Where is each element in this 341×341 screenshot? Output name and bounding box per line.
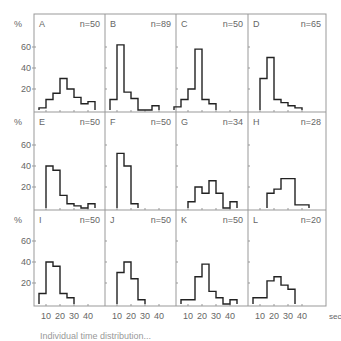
x-tick-label: 10: [41, 311, 51, 321]
panel-letter: C: [181, 19, 188, 29]
y-tick-label: 60: [21, 236, 31, 246]
sample-size-label: n=50: [151, 215, 171, 225]
sample-size-label: n=28: [301, 117, 321, 127]
histogram-bars: [267, 179, 309, 208]
histogram-bars: [188, 181, 237, 208]
sample-size-label: n=50: [80, 215, 100, 225]
panel-letter: A: [39, 19, 45, 29]
sample-size-label: n=50: [151, 117, 171, 127]
panel-l: Ln=20: [248, 215, 321, 306]
sample-size-label: n=89: [151, 19, 171, 29]
histogram-bars: [174, 49, 216, 110]
panel-letter: L: [253, 215, 258, 225]
y-tick-label: 40: [21, 161, 31, 171]
x-tick-label: 40: [297, 311, 307, 321]
x-tick-label: 40: [225, 311, 235, 321]
histogram-bars: [110, 45, 159, 110]
panel-b: Bn=89: [105, 19, 171, 112]
panel-e: En=50: [34, 117, 100, 210]
panel-f: Fn=50: [105, 117, 171, 210]
panel-letter: J: [110, 215, 115, 225]
x-tick-label: 20: [197, 311, 207, 321]
y-tick-label: 20: [21, 278, 31, 288]
panel-letter: F: [110, 117, 116, 127]
y-tick-label: 40: [21, 257, 31, 267]
x-tick-label: 30: [140, 311, 150, 321]
panel-a: An=50: [34, 19, 100, 112]
y-tick-label: 20: [21, 182, 31, 192]
x-tick-label: 30: [69, 311, 79, 321]
panel-d: Dn=65: [248, 19, 321, 112]
y-tick-label: 60: [21, 42, 31, 52]
histogram-bars: [181, 264, 237, 304]
sample-size-label: n=20: [301, 215, 321, 225]
sample-size-label: n=34: [223, 117, 243, 127]
histogram-bars: [46, 166, 95, 208]
panel-letter: D: [253, 19, 260, 29]
y-tick-label: 20: [21, 84, 31, 94]
x-tick-label: 40: [83, 311, 93, 321]
x-tick-label: 20: [269, 311, 279, 321]
panel-g: Gn=34: [176, 117, 243, 210]
histogram-bars: [39, 79, 95, 111]
x-tick-label: 10: [183, 311, 193, 321]
panel-h: Hn=28: [248, 117, 321, 210]
panel-c: Cn=50: [174, 19, 243, 112]
panel-letter: H: [253, 117, 260, 127]
sample-size-label: n=50: [80, 19, 100, 29]
panel-letter: K: [181, 215, 187, 225]
y-unit-label: %: [14, 117, 22, 127]
histogram-bars: [253, 277, 295, 304]
sample-size-label: n=50: [80, 117, 100, 127]
histogram-bars: [117, 262, 145, 304]
sample-size-label: n=50: [223, 215, 243, 225]
x-unit-label: sec: [329, 312, 341, 321]
x-tick-label: 30: [211, 311, 221, 321]
panel-k: Kn=50: [176, 215, 243, 306]
x-tick-label: 10: [255, 311, 265, 321]
y-unit-label: %: [14, 215, 22, 225]
x-tick-label: 40: [154, 311, 164, 321]
figure-caption-partial: Individual time distribution...: [40, 331, 151, 341]
histogram-bars: [260, 58, 302, 111]
x-tick-label: 20: [126, 311, 136, 321]
panel-i: In=50: [34, 215, 100, 306]
y-unit-label: %: [14, 19, 22, 29]
panel-letter: B: [110, 19, 116, 29]
panel-j: Jn=50: [105, 215, 171, 306]
x-tick-label: 10: [112, 311, 122, 321]
x-tick-label: 30: [283, 311, 293, 321]
panel-letter: E: [39, 117, 45, 127]
histogram-bars: [39, 262, 74, 304]
sample-size-label: n=50: [223, 19, 243, 29]
panel-letter: G: [181, 117, 188, 127]
sample-size-label: n=65: [301, 19, 321, 29]
y-tick-label: 60: [21, 140, 31, 150]
x-tick-label: 20: [55, 311, 65, 321]
grid-frame: [34, 14, 326, 306]
y-tick-label: 40: [21, 63, 31, 73]
panel-letter: I: [39, 215, 42, 225]
histogram-bars: [117, 153, 138, 208]
